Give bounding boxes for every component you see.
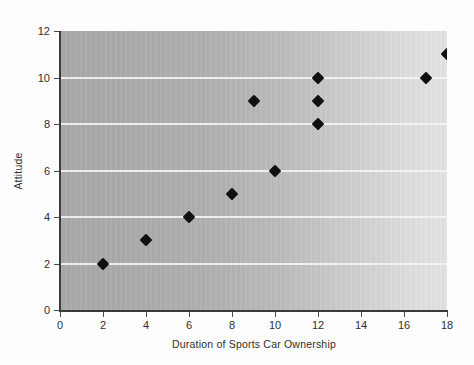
gridline-y-6 (60, 170, 447, 172)
y-tick-4 (54, 217, 59, 218)
y-tick-label-12: 12 (0, 25, 50, 37)
data-point (140, 234, 153, 247)
data-point (247, 94, 260, 107)
data-point (97, 257, 110, 270)
x-tick-label-14: 14 (355, 319, 367, 331)
data-point (183, 211, 196, 224)
x-tick-label-10: 10 (269, 319, 281, 331)
x-tick-12 (318, 312, 319, 317)
x-tick-18 (447, 312, 448, 317)
x-axis-line (60, 310, 448, 312)
data-point (312, 71, 325, 84)
x-tick-2 (103, 312, 104, 317)
y-tick-12 (54, 31, 59, 32)
gridline-y-8 (60, 123, 447, 125)
gridline-y-10 (60, 77, 447, 79)
y-tick-6 (54, 171, 59, 172)
data-point (312, 94, 325, 107)
x-tick-label-4: 4 (143, 319, 149, 331)
y-tick-label-2: 2 (0, 258, 50, 270)
data-point (441, 48, 447, 61)
x-tick-10 (275, 312, 276, 317)
y-tick-10 (54, 78, 59, 79)
data-point (269, 164, 282, 177)
y-tick-0 (54, 310, 59, 311)
x-tick-0 (60, 312, 61, 317)
y-tick-label-4: 4 (0, 211, 50, 223)
x-tick-14 (361, 312, 362, 317)
x-axis-title: Duration of Sports Car Ownership (60, 338, 448, 350)
data-point (226, 187, 239, 200)
y-tick-2 (54, 264, 59, 265)
x-tick-8 (232, 312, 233, 317)
y-tick-label-6: 6 (0, 165, 50, 177)
gridline-y-4 (60, 216, 447, 218)
y-tick-label-8: 8 (0, 118, 50, 130)
plot-area (60, 31, 447, 310)
x-tick-16 (404, 312, 405, 317)
scatter-chart: 024681012141618 024681012 Duration of Sp… (0, 0, 474, 365)
x-tick-4 (146, 312, 147, 317)
data-point (419, 71, 432, 84)
x-tick-label-6: 6 (186, 319, 192, 331)
x-tick-6 (189, 312, 190, 317)
x-tick-label-0: 0 (57, 319, 63, 331)
y-tick-label-0: 0 (0, 304, 50, 316)
y-axis-line (59, 31, 61, 312)
y-tick-label-10: 10 (0, 72, 50, 84)
gridline-y-2 (60, 263, 447, 265)
x-tick-label-12: 12 (312, 319, 324, 331)
x-tick-label-16: 16 (398, 319, 410, 331)
data-point (312, 118, 325, 131)
y-axis-title: Attitude (12, 152, 24, 189)
x-tick-label-8: 8 (229, 319, 235, 331)
x-tick-label-2: 2 (100, 319, 106, 331)
x-tick-label-18: 18 (441, 319, 453, 331)
y-tick-8 (54, 124, 59, 125)
